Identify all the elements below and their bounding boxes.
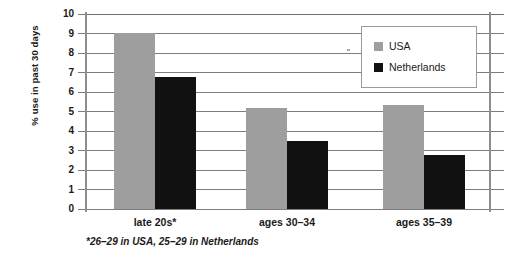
y-axis-tick-label: 8	[48, 48, 74, 58]
y-axis-tick-labels: 109876543210	[44, 0, 74, 230]
legend-label-usa: USA	[389, 41, 411, 52]
bar-usa	[383, 105, 424, 209]
bar-netherlands	[287, 141, 328, 209]
x-axis-tick-label: ages 35–39	[347, 216, 501, 228]
y-axis-tick-label: 9	[48, 29, 74, 39]
y-axis-tick-label: 10	[48, 9, 74, 19]
bar-usa	[114, 33, 155, 209]
footnote: *26–29 in USA, 25–29 in Netherlands	[86, 236, 259, 247]
legend: USA Netherlands	[361, 26, 477, 88]
y-axis-tick-label: 3	[48, 146, 74, 156]
legend-item-usa: USA	[374, 36, 476, 57]
y-axis-tick-label: 2	[48, 165, 74, 175]
y-axis-tick-label: 5	[48, 107, 74, 117]
y-axis-title: % use in past 30 days	[29, 0, 40, 156]
bar-usa	[246, 108, 287, 209]
y-axis-tick-label: 0	[48, 204, 74, 214]
y-axis-tick-label: 1	[48, 185, 74, 195]
bar-netherlands	[155, 77, 196, 209]
bar-netherlands	[424, 155, 465, 209]
bar-chart: % use in past 30 days 109876543210 late …	[0, 0, 512, 262]
legend-swatch-netherlands	[374, 63, 383, 72]
legend-label-netherlands: Netherlands	[389, 62, 446, 73]
y-axis-tick-label: 6	[48, 87, 74, 97]
y-axis-tick-label: 7	[48, 68, 74, 78]
scan-speck	[347, 49, 350, 51]
legend-item-netherlands: Netherlands	[374, 57, 476, 78]
x-axis-tick-label: ages 30–34	[210, 216, 364, 228]
legend-swatch-usa	[374, 42, 383, 51]
y-axis-tick-label: 4	[48, 126, 74, 136]
x-axis-tick-label: late 20s*	[78, 216, 232, 228]
